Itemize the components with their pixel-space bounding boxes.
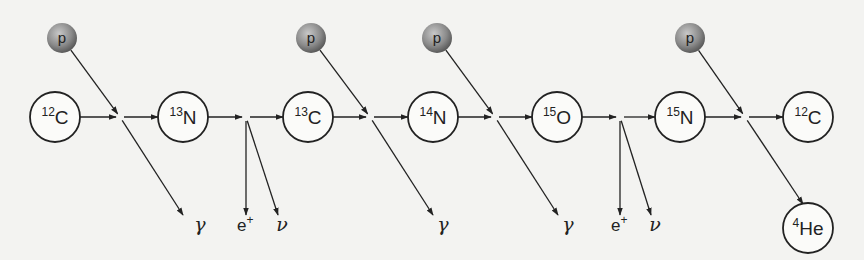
nucleus-12C: 12C [783, 92, 833, 142]
nucleus-15N: 15N [655, 92, 705, 142]
nucleus-13C: 13C [283, 92, 333, 142]
nucleus-14N: 14N [408, 92, 458, 142]
particle-label: ν [276, 213, 288, 235]
product-arrow-neutrino [247, 121, 278, 215]
particle-label: γ [562, 213, 574, 235]
cno-cycle-diagram: 12C13N13C14N15O15N12C4He pppp γe+νγγe+ν [0, 0, 864, 260]
proton: p [47, 23, 77, 53]
nucleus-12C: 12C [30, 92, 80, 142]
proton: p [675, 23, 705, 53]
proton: p [296, 23, 326, 53]
proton: p [422, 23, 452, 53]
proton-label: p [686, 29, 694, 46]
particle-label: γ [194, 213, 206, 235]
positron-label: e+ [237, 213, 253, 235]
product-labels: γe+νγγe+ν [194, 213, 661, 235]
particle-label: γ [437, 213, 449, 235]
protons-group: pppp [47, 23, 705, 53]
particle-label: ν [649, 213, 661, 235]
product-arrow-neutrino [621, 121, 651, 215]
nucleus-4He: 4He [783, 203, 833, 253]
proton-label: p [307, 29, 315, 46]
proton-label: p [433, 29, 441, 46]
nucleus-13N: 13N [158, 92, 208, 142]
nucleus-15O: 15O [532, 92, 582, 142]
proton-arrow [699, 50, 743, 113]
proton-label: p [58, 29, 66, 46]
positron-label: e+ [611, 213, 627, 235]
proton-arrow [71, 50, 118, 114]
nuclei-group: 12C13N13C14N15O15N12C4He [30, 92, 833, 253]
